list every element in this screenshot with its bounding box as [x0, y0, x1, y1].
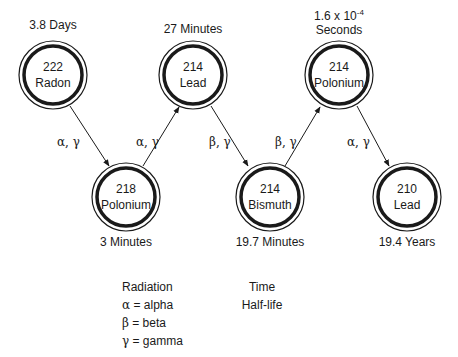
radiation-label-edge-2: α, γ — [136, 135, 159, 149]
mass-number: 214 — [304, 59, 374, 75]
element-name: Lead — [372, 197, 442, 213]
half-life-lead-214: 27 Minutes — [143, 22, 243, 36]
legend-time-title: Time — [232, 278, 292, 296]
node-lead-214: 214 Lead — [158, 59, 228, 91]
alpha-symbol: α — [122, 298, 130, 312]
element-name: Bismuth — [235, 197, 305, 213]
node-lead-210: 210 Lead — [372, 181, 442, 213]
mass-number: 222 — [18, 59, 88, 75]
legend-time: Time Half-life — [232, 278, 292, 314]
element-name: Polonium — [304, 75, 374, 91]
beta-symbol: β — [122, 316, 129, 330]
half-life-bismuth-214: 19.7 Minutes — [220, 235, 320, 249]
legend-time-subtitle: Half-life — [232, 296, 292, 314]
mass-number: 218 — [91, 181, 161, 197]
mass-number: 214 — [235, 181, 305, 197]
radiation-label-edge-1: α, γ — [57, 135, 80, 149]
node-polonium-218: 218 Polonium — [91, 181, 161, 213]
node-polonium-214: 214 Polonium — [304, 59, 374, 91]
legend-item-gamma: γ = gamma — [122, 332, 183, 350]
legend-radiation: Radiation α = alpha β = beta γ = gamma — [122, 278, 183, 350]
legend-item-beta: β = beta — [122, 314, 183, 332]
element-name: Lead — [158, 75, 228, 91]
node-radon-222: 222 Radon — [18, 59, 88, 91]
radiation-label-edge-4: β, γ — [275, 135, 297, 149]
half-life-lead-210: 19.4 Years — [357, 235, 457, 249]
radiation-label-edge-3: β, γ — [209, 135, 231, 149]
half-life-radon-222: 3.8 Days — [3, 18, 103, 32]
mass-number: 214 — [158, 59, 228, 75]
decay-chain-graphics — [0, 0, 458, 357]
node-bismuth-214: 214 Bismuth — [235, 181, 305, 213]
half-life-polonium-218: 3 Minutes — [76, 235, 176, 249]
element-name: Radon — [18, 75, 88, 91]
legend-item-alpha: α = alpha — [122, 296, 183, 314]
half-life-polonium-214: 1.6 x 10-4 Seconds — [289, 9, 389, 37]
radiation-label-edge-5: α, γ — [347, 135, 370, 149]
element-name: Polonium — [91, 197, 161, 213]
mass-number: 210 — [372, 181, 442, 197]
legend-radiation-title: Radiation — [122, 278, 183, 296]
